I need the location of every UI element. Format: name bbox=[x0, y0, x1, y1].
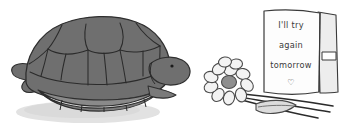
turtle bbox=[12, 17, 190, 112]
scene-svg: I'll try again tomorrow ♡ bbox=[0, 0, 352, 130]
flower-center bbox=[222, 76, 237, 89]
turtle-eye bbox=[170, 64, 173, 67]
card-line-1: I'll try bbox=[278, 20, 304, 30]
illustration-canvas: I'll try again tomorrow ♡ bbox=[0, 0, 352, 130]
card-fold-tab bbox=[322, 52, 336, 60]
heart-icon: ♡ bbox=[287, 77, 295, 87]
card-line-2: again bbox=[279, 40, 303, 50]
turtle-head bbox=[149, 57, 190, 85]
greeting-card: I'll try again tomorrow ♡ bbox=[264, 10, 338, 94]
card-line-3: tomorrow bbox=[270, 60, 312, 70]
